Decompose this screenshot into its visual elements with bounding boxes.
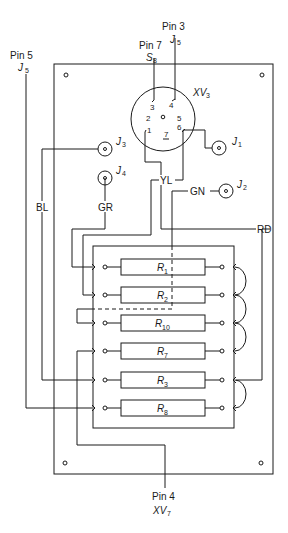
- socket-pin-2: 2: [146, 114, 151, 123]
- wire-pin1: [145, 132, 161, 175]
- wire-bl: [42, 149, 98, 201]
- wire-r10-loop: [77, 309, 92, 323]
- svg-text:4: 4: [122, 170, 126, 177]
- svg-text:8: 8: [164, 409, 168, 416]
- label-pin5-j: J: [17, 62, 24, 73]
- screw-hole-icon: [64, 73, 68, 77]
- svg-text:1: 1: [164, 268, 168, 275]
- svg-text:3: 3: [206, 92, 210, 99]
- wire-yl-to-r2: [83, 180, 159, 295]
- socket-pin-7: 7: [164, 130, 169, 139]
- svg-text:2: 2: [243, 184, 247, 191]
- wire-gn: [172, 191, 188, 246]
- svg-text:10: 10: [162, 324, 170, 331]
- jumper-r3-r8: [235, 380, 246, 408]
- label-wire-gn: GN: [190, 186, 205, 197]
- label-wire-rd: RD: [257, 224, 271, 235]
- label-j3: J: [115, 136, 122, 147]
- label-pin3: Pin 3: [162, 21, 185, 32]
- wiring-diagram: Pin 3 J 5 Pin 7 S 8 Pin 5 J 5 XV 3 3 4 2…: [0, 0, 288, 533]
- label-wire-gr: GR: [98, 202, 113, 213]
- wire-bl-to-r3: [42, 212, 92, 380]
- wire-pin6-yl: [175, 130, 183, 180]
- svg-text:3: 3: [164, 381, 168, 388]
- label-j2: J: [236, 179, 243, 190]
- socket-pin-1: 1: [147, 126, 152, 135]
- socket-center-key-icon: [161, 115, 165, 119]
- label-pin7: Pin 7: [139, 40, 162, 51]
- jack-j1-icon: [212, 141, 226, 155]
- svg-text:3: 3: [122, 141, 126, 148]
- socket-pin-3: 3: [150, 103, 155, 112]
- jumper-r1-r2: [235, 267, 246, 295]
- label-pin7-s: S: [146, 52, 153, 63]
- socket-pin-4: 4: [169, 101, 174, 110]
- screw-hole-icon: [259, 461, 263, 465]
- wire-gr-to-r1: [72, 212, 105, 267]
- label-pin4-xv: XV: [152, 505, 168, 516]
- svg-text:8: 8: [153, 57, 157, 64]
- jack-j2-icon: [219, 184, 233, 198]
- label-wire-yl: YL: [160, 175, 173, 186]
- label-pin4: Pin 4: [152, 491, 175, 502]
- screw-hole-icon: [260, 73, 264, 77]
- screw-hole-icon: [63, 461, 67, 465]
- label-j1: J: [231, 136, 238, 147]
- label-pin5: Pin 5: [10, 50, 33, 61]
- label-pin3-j: J: [169, 34, 176, 45]
- wire-rd: [161, 185, 256, 229]
- wire-pin5-j5: [26, 74, 92, 408]
- svg-text:5: 5: [177, 39, 181, 46]
- label-j4: J: [115, 165, 122, 176]
- svg-text:7: 7: [164, 352, 168, 359]
- wire-rd-to-r3: [236, 229, 270, 380]
- socket-pin-6: 6: [177, 123, 182, 132]
- svg-text:2: 2: [164, 296, 168, 303]
- svg-text:1: 1: [238, 141, 242, 148]
- socket-pin-5: 5: [177, 114, 182, 123]
- jack-j3-icon: [98, 142, 112, 156]
- svg-text:7: 7: [167, 510, 171, 517]
- jumper-r10-r7: [235, 323, 246, 351]
- svg-text:5: 5: [25, 67, 29, 74]
- jumper-r2-r10: [235, 295, 246, 323]
- label-wire-bl: BL: [36, 202, 49, 213]
